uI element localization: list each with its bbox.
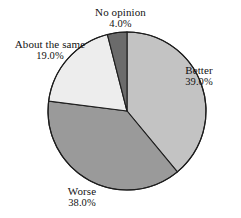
pie-label-worse-name: Worse: [54, 185, 110, 197]
pie-chart-canvas: [0, 0, 241, 218]
pie-label-about-the-same-name: About the same: [2, 38, 98, 50]
pie-label-no-opinion: No opinion 4.0%: [0, 6, 241, 30]
pie-label-no-opinion-name: No opinion: [0, 6, 241, 18]
pie-chart-figure: No opinion 4.0% About the same 19.0% Bet…: [0, 0, 241, 218]
pie-label-worse-value: 38.0%: [54, 197, 110, 209]
pie-label-about-the-same: About the same 19.0%: [2, 38, 98, 62]
pie-label-about-the-same-value: 19.0%: [2, 50, 98, 62]
pie-label-better: Better 39.0%: [168, 64, 230, 88]
pie-label-worse: Worse 38.0%: [54, 185, 110, 209]
pie-label-better-name: Better: [168, 64, 230, 76]
pie-label-no-opinion-value: 4.0%: [0, 18, 241, 30]
pie-label-better-value: 39.0%: [168, 76, 230, 88]
